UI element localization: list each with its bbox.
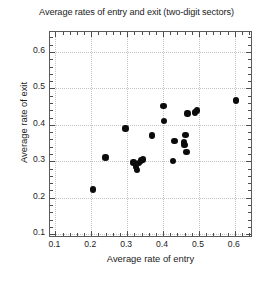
y-tick-right <box>248 212 251 213</box>
gridline-horizontal-1 <box>50 198 251 199</box>
x-tick-bottom <box>98 233 99 236</box>
y-tick-left <box>50 220 53 221</box>
x-tick-top <box>113 32 114 35</box>
y-tick-right <box>248 147 251 148</box>
x-tick-top <box>185 32 186 35</box>
y-tick-left <box>50 198 55 199</box>
y-tick-right <box>248 227 251 228</box>
x-tick-top <box>120 32 121 35</box>
y-tick-right <box>248 154 251 155</box>
x-tick-top <box>98 32 99 35</box>
data-point <box>161 118 167 124</box>
y-tick-left <box>50 169 53 170</box>
y-tick-left <box>50 52 55 53</box>
x-tick-label-5: 0.6 <box>219 239 249 249</box>
y-tick-right <box>248 190 251 191</box>
gridline-horizontal-5 <box>50 52 251 53</box>
y-tick-left <box>50 67 53 68</box>
gridline-horizontal-3 <box>50 125 251 126</box>
data-point <box>181 142 187 148</box>
gridline-horizontal-2 <box>50 161 251 162</box>
y-tick-right <box>248 45 251 46</box>
y-tick-right <box>248 96 251 97</box>
x-tick-top <box>199 32 200 37</box>
x-tick-label-3: 0.4 <box>147 239 177 249</box>
x-tick-top <box>249 32 250 35</box>
x-tick-bottom <box>77 233 78 236</box>
data-point <box>90 186 96 192</box>
y-tick-right <box>248 205 251 206</box>
y-tick-right <box>248 176 251 177</box>
y-tick-right <box>248 139 251 140</box>
y-tick-right <box>248 37 251 38</box>
data-point <box>182 132 188 138</box>
data-point <box>183 149 189 155</box>
y-tick-left <box>50 103 53 104</box>
x-tick-label-2: 0.3 <box>111 239 141 249</box>
data-point <box>134 167 140 173</box>
y-tick-left <box>50 125 55 126</box>
x-tick-top <box>77 32 78 35</box>
y-tick-left <box>50 45 53 46</box>
x-tick-bottom <box>170 233 171 236</box>
x-tick-bottom <box>235 231 236 236</box>
gridline-vertical-1 <box>91 32 92 236</box>
x-tick-bottom <box>113 233 114 236</box>
x-tick-top <box>220 32 221 35</box>
y-tick-label-1: 0.2 <box>19 191 45 201</box>
x-tick-bottom <box>149 233 150 236</box>
x-tick-top <box>55 32 56 37</box>
y-tick-left <box>50 183 53 184</box>
x-tick-bottom <box>213 233 214 236</box>
data-point <box>140 156 146 162</box>
y-tick-left <box>50 132 53 133</box>
y-tick-left <box>50 74 53 75</box>
x-tick-bottom <box>91 231 92 236</box>
y-tick-right <box>248 103 251 104</box>
x-tick-bottom <box>63 233 64 236</box>
gridline-horizontal-4 <box>50 88 251 89</box>
y-tick-right <box>246 52 251 53</box>
y-tick-right <box>248 132 251 133</box>
y-tick-label-4: 0.5 <box>19 81 45 91</box>
y-tick-right <box>246 161 251 162</box>
x-tick-bottom <box>242 233 243 236</box>
x-tick-top <box>228 32 229 35</box>
x-tick-top <box>235 32 236 37</box>
y-tick-label-3: 0.4 <box>19 118 45 128</box>
x-tick-top <box>170 32 171 35</box>
data-point <box>160 103 166 109</box>
y-tick-left <box>50 37 53 38</box>
data-point <box>194 107 200 113</box>
x-tick-bottom <box>127 231 128 236</box>
y-tick-left <box>50 154 53 155</box>
x-tick-label-4: 0.5 <box>183 239 213 249</box>
y-tick-right <box>248 67 251 68</box>
y-tick-label-2: 0.3 <box>19 154 45 164</box>
x-tick-top <box>242 32 243 35</box>
x-tick-top <box>63 32 64 35</box>
y-tick-left <box>50 190 53 191</box>
x-tick-bottom <box>134 233 135 236</box>
x-tick-top <box>127 32 128 37</box>
x-tick-top <box>106 32 107 35</box>
x-tick-bottom <box>163 231 164 236</box>
scatter-chart-figure: Average rates of entry and exit (two-dig… <box>0 0 273 285</box>
data-point <box>122 125 128 131</box>
gridline-vertical-4 <box>199 32 200 236</box>
y-tick-left <box>50 110 53 111</box>
x-tick-label-1: 0.2 <box>75 239 105 249</box>
y-tick-right <box>246 88 251 89</box>
plot-area <box>49 31 252 237</box>
x-tick-bottom <box>220 233 221 236</box>
x-tick-top <box>206 32 207 35</box>
x-tick-top <box>134 32 135 35</box>
gridline-vertical-0 <box>55 32 56 236</box>
x-tick-top <box>84 32 85 35</box>
y-tick-left <box>50 176 53 177</box>
x-tick-bottom <box>70 233 71 236</box>
y-tick-right <box>248 220 251 221</box>
x-tick-top <box>156 32 157 35</box>
y-tick-right <box>248 74 251 75</box>
y-tick-right <box>248 169 251 170</box>
